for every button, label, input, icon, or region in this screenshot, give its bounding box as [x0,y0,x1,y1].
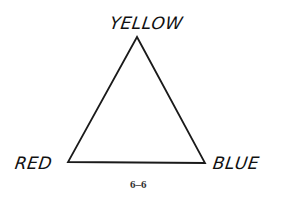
vertex-label-blue: BLUE [212,155,261,172]
vertex-label-yellow: YELLOW [109,15,184,32]
vertex-label-red: RED [14,155,54,172]
figure-caption: 6–6 [130,179,147,190]
triangle-shape [68,37,205,163]
